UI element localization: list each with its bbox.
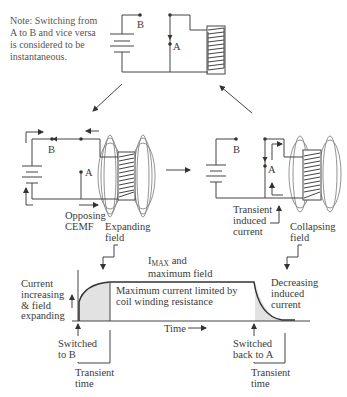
current-arrow-icon — [168, 35, 173, 40]
imax-label: IMAX and — [148, 255, 188, 268]
svg-text:CEMF: CEMF — [65, 221, 94, 232]
switched-back-to-a-label: Switched — [233, 338, 273, 349]
svg-text:A to B and vice versa: A to B and vice versa — [10, 27, 96, 38]
induced-current-label: Transient — [233, 204, 272, 215]
flow-arrow-icon — [220, 86, 252, 113]
svg-text:Note: Switching from: Note: Switching from — [10, 15, 97, 26]
switch-b-contact — [138, 13, 142, 17]
note-text: Note: Switching from A to B and vice ver… — [10, 15, 97, 62]
current-increasing-label: Current — [21, 278, 53, 289]
maximum-current-label: Maximum current limited by — [116, 285, 238, 296]
pointer-arrow-icon — [287, 245, 302, 269]
decreasing-current-label: Decreasing — [271, 277, 319, 288]
switch-a-contact — [168, 42, 172, 46]
switched-to-b-label: Switched — [58, 338, 98, 349]
flow-arrow-icon — [93, 84, 122, 111]
current-flow-arrow-icon — [26, 132, 43, 143]
coil-icon — [118, 152, 135, 200]
expanding-field-label: Expanding — [105, 221, 151, 232]
current-time-graph: IMAX and maximum field Current increasin… — [21, 255, 319, 389]
pointer-arrow-icon — [103, 245, 118, 269]
svg-text:increasing: increasing — [21, 289, 65, 300]
time-axis-label: Time — [164, 323, 186, 334]
battery-icon — [110, 34, 134, 52]
transient-time-left-label: Transient — [75, 367, 114, 378]
induced-current-arrow-icon — [272, 144, 282, 160]
battery-icon — [206, 165, 226, 182]
svg-text:time: time — [75, 378, 94, 389]
svg-text:field: field — [105, 232, 125, 243]
switch-b-label: B — [137, 19, 144, 30]
svg-text:B: B — [48, 144, 55, 155]
coil-icon — [303, 150, 321, 200]
induced-current-arrow-icon — [272, 183, 283, 195]
top-circuit: B A — [110, 13, 225, 74]
switch-a-label: A — [173, 41, 181, 52]
cemf-label: Opposing — [65, 210, 107, 221]
inductor-switching-diagram: Note: Switching from A to B and vice ver… — [0, 0, 347, 397]
svg-text:coil winding resistance: coil winding resistance — [116, 296, 213, 307]
svg-text:maximum field: maximum field — [148, 268, 213, 279]
svg-text:back to A: back to A — [233, 349, 274, 360]
battery-icon — [22, 166, 42, 183]
svg-text:current: current — [271, 299, 301, 310]
right-circuit: B A Transient induced current Collapsing… — [206, 136, 341, 269]
svg-text:A: A — [85, 167, 93, 178]
svg-text:time: time — [251, 378, 270, 389]
coil-icon — [207, 26, 225, 74]
transient-time-right-label: Transient — [251, 367, 290, 378]
svg-text:current: current — [233, 226, 263, 237]
svg-text:to B: to B — [58, 349, 76, 360]
svg-text:induced: induced — [271, 288, 305, 299]
svg-text:field: field — [290, 232, 310, 243]
svg-text:expanding: expanding — [21, 310, 65, 321]
svg-text:is considered to be: is considered to be — [10, 39, 85, 50]
svg-text:B: B — [233, 144, 240, 155]
left-circuit: B A Opposing CEMF Expanding field — [22, 131, 155, 269]
collapsing-field-label: Collapsing — [290, 221, 336, 232]
svg-text:instantaneous.: instantaneous. — [10, 51, 67, 62]
svg-text:induced: induced — [233, 215, 267, 226]
svg-text:A: A — [268, 164, 276, 175]
